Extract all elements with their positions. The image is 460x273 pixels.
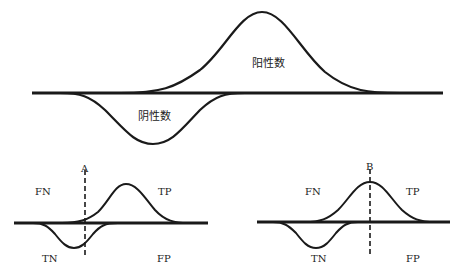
diagram-canvas: 阳性数 阴性数 A FN TP TN FP B FN TP TN FP — [0, 0, 460, 273]
tp-label: TP — [158, 186, 172, 197]
fp-label: FP — [406, 253, 420, 264]
top-diagram: 阳性数 阴性数 — [32, 12, 443, 144]
bottom-right-diagram: B FN TP TN FP — [257, 161, 450, 264]
negative-count-label: 阴性数 — [138, 109, 171, 123]
tp-label: TP — [406, 186, 420, 197]
tn-label: TN — [42, 253, 58, 264]
bottom-left-diagram: A FN TP TN FP — [14, 163, 208, 264]
tn-label: TN — [311, 253, 327, 264]
negative-distribution-curve — [273, 222, 358, 248]
positive-distribution-curve — [120, 12, 400, 93]
fp-label: FP — [157, 253, 171, 264]
threshold-b-label: B — [366, 161, 373, 172]
threshold-a-label: A — [80, 163, 89, 174]
negative-distribution-curve — [33, 223, 118, 248]
positive-count-label: 阳性数 — [252, 56, 285, 70]
fn-label: FN — [35, 186, 51, 197]
fn-label: FN — [305, 186, 321, 197]
